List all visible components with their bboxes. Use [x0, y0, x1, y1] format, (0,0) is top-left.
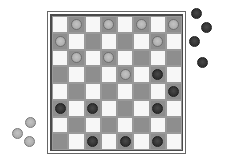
- board-square-r2-c5[interactable]: [133, 50, 149, 67]
- board-square-r6-c5[interactable]: [133, 117, 149, 134]
- board-square-r3-c5[interactable]: [133, 66, 149, 83]
- board-square-r4-c6[interactable]: [150, 83, 166, 100]
- captured-dark-piece: [191, 8, 202, 19]
- board-square-r7-c5[interactable]: [133, 133, 149, 150]
- board-square-r3-c4[interactable]: [117, 66, 133, 83]
- dark-checker-piece[interactable]: [87, 136, 98, 147]
- board-square-r7-c3[interactable]: [101, 133, 117, 150]
- board-square-r0-c5[interactable]: [133, 16, 149, 33]
- board-square-r7-c7[interactable]: [166, 133, 182, 150]
- board-square-r0-c0[interactable]: [52, 16, 68, 33]
- board-square-r5-c1[interactable]: [68, 100, 84, 117]
- board-square-r2-c3[interactable]: [101, 50, 117, 67]
- board-square-r4-c1[interactable]: [68, 83, 84, 100]
- board-square-r7-c4[interactable]: [117, 133, 133, 150]
- board-square-r7-c2[interactable]: [85, 133, 101, 150]
- board-square-r7-c0[interactable]: [52, 133, 68, 150]
- board-square-r0-c2[interactable]: [85, 16, 101, 33]
- board-square-r1-c1[interactable]: [68, 33, 84, 50]
- dark-checker-piece[interactable]: [120, 136, 131, 147]
- board-square-r5-c0[interactable]: [52, 100, 68, 117]
- board-square-r1-c0[interactable]: [52, 33, 68, 50]
- light-checker-piece[interactable]: [71, 52, 82, 63]
- dark-checker-piece[interactable]: [152, 69, 163, 80]
- board-square-r3-c7[interactable]: [166, 66, 182, 83]
- board-square-r6-c3[interactable]: [101, 117, 117, 134]
- dark-checker-piece[interactable]: [55, 103, 66, 114]
- board-square-r1-c7[interactable]: [166, 33, 182, 50]
- board-square-r6-c7[interactable]: [166, 117, 182, 134]
- light-checker-piece[interactable]: [136, 19, 147, 30]
- dark-checker-piece[interactable]: [168, 86, 179, 97]
- board-square-r0-c3[interactable]: [101, 16, 117, 33]
- board-square-r5-c3[interactable]: [101, 100, 117, 117]
- board-square-r0-c7[interactable]: [166, 16, 182, 33]
- board-square-r3-c1[interactable]: [68, 66, 84, 83]
- board-square-r5-c4[interactable]: [117, 100, 133, 117]
- board-square-r1-c6[interactable]: [150, 33, 166, 50]
- board-square-r5-c2[interactable]: [85, 100, 101, 117]
- board-square-r6-c2[interactable]: [85, 117, 101, 134]
- board-square-r5-c6[interactable]: [150, 100, 166, 117]
- board-square-r2-c2[interactable]: [85, 50, 101, 67]
- board-square-r6-c1[interactable]: [68, 117, 84, 134]
- board-square-r4-c7[interactable]: [166, 83, 182, 100]
- board-square-r4-c3[interactable]: [101, 83, 117, 100]
- light-checker-piece[interactable]: [71, 19, 82, 30]
- captured-dark-piece: [201, 22, 212, 33]
- board-square-r4-c2[interactable]: [85, 83, 101, 100]
- board-square-r4-c4[interactable]: [117, 83, 133, 100]
- light-checker-piece[interactable]: [120, 69, 131, 80]
- captured-light-piece: [25, 117, 36, 128]
- board-square-r3-c6[interactable]: [150, 66, 166, 83]
- board-square-r6-c6[interactable]: [150, 117, 166, 134]
- board-square-r3-c3[interactable]: [101, 66, 117, 83]
- captured-dark-piece: [189, 36, 200, 47]
- board-square-r2-c4[interactable]: [117, 50, 133, 67]
- board-square-r0-c4[interactable]: [117, 16, 133, 33]
- board-square-r2-c1[interactable]: [68, 50, 84, 67]
- board-square-r1-c2[interactable]: [85, 33, 101, 50]
- dark-checker-piece[interactable]: [152, 103, 163, 114]
- dark-checker-piece[interactable]: [87, 103, 98, 114]
- captured-light-piece: [24, 136, 35, 147]
- light-checker-piece[interactable]: [103, 52, 114, 63]
- captured-dark-piece: [197, 57, 208, 68]
- checkers-board: [52, 16, 182, 150]
- board-square-r0-c6[interactable]: [150, 16, 166, 33]
- dark-checker-piece[interactable]: [152, 136, 163, 147]
- light-checker-piece[interactable]: [103, 19, 114, 30]
- board-square-r7-c6[interactable]: [150, 133, 166, 150]
- board-square-r1-c5[interactable]: [133, 33, 149, 50]
- board-square-r3-c0[interactable]: [52, 66, 68, 83]
- board-square-r2-c6[interactable]: [150, 50, 166, 67]
- board-square-r1-c3[interactable]: [101, 33, 117, 50]
- board-square-r7-c1[interactable]: [68, 133, 84, 150]
- board-square-r2-c0[interactable]: [52, 50, 68, 67]
- captured-light-piece: [12, 128, 23, 139]
- light-checker-piece[interactable]: [55, 36, 66, 47]
- light-checker-piece[interactable]: [152, 36, 163, 47]
- board-square-r6-c0[interactable]: [52, 117, 68, 134]
- board-square-r2-c7[interactable]: [166, 50, 182, 67]
- board-square-r3-c2[interactable]: [85, 66, 101, 83]
- board-square-r5-c7[interactable]: [166, 100, 182, 117]
- board-square-r5-c5[interactable]: [133, 100, 149, 117]
- light-checker-piece[interactable]: [168, 19, 179, 30]
- board-square-r6-c4[interactable]: [117, 117, 133, 134]
- board-square-r4-c0[interactable]: [52, 83, 68, 100]
- board-square-r0-c1[interactable]: [68, 16, 84, 33]
- board-square-r1-c4[interactable]: [117, 33, 133, 50]
- board-square-r4-c5[interactable]: [133, 83, 149, 100]
